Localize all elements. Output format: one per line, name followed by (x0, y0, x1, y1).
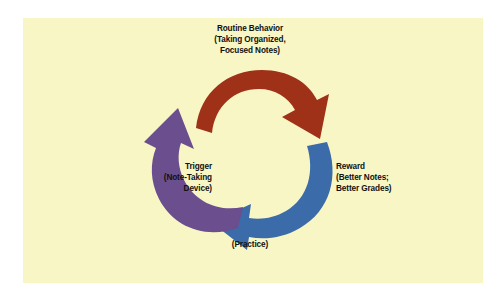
label-routine-line-1: Routine Behavior (180, 23, 320, 34)
label-trigger: Trigger (Note-Taking Device) (62, 161, 212, 195)
label-reward-line-3: Better Grades) (336, 183, 391, 194)
label-reward-line-2: (Better Notes; (336, 172, 391, 183)
label-routine-line-2: (Taking Organized, (180, 34, 320, 45)
habit-loop-figure: Routine Behavior (Taking Organized, Focu… (0, 0, 504, 296)
label-routine-behavior: Routine Behavior (Taking Organized, Focu… (180, 23, 320, 57)
label-practice-line-1: (Practice) (190, 239, 310, 250)
routine-behavior-arrow (196, 70, 329, 139)
label-practice: (Practice) (190, 239, 310, 250)
label-trigger-line-1: Trigger (62, 161, 212, 172)
label-reward: Reward (Better Notes; Better Grades) (336, 161, 391, 195)
label-trigger-line-3: Device) (62, 183, 212, 194)
reward-arrow (211, 142, 333, 250)
label-routine-line-3: Focused Notes) (180, 45, 320, 56)
label-trigger-line-2: (Note-Taking (62, 172, 212, 183)
label-reward-line-1: Reward (336, 161, 391, 172)
